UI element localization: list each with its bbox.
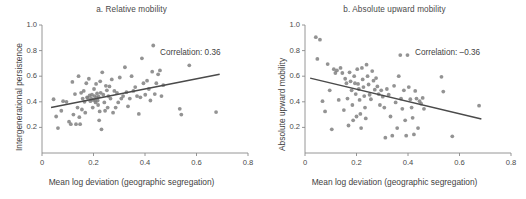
panel-b-x-tick-label: 0.8 — [496, 158, 526, 167]
panel-a-plot — [0, 0, 263, 199]
panel-b-y-tick-label: 0.4 — [263, 97, 300, 106]
panel-a-correlation-annotation: Correlation: 0.36 — [160, 48, 221, 57]
panel-a-y-tick-label: 0.6 — [0, 71, 37, 80]
panel-b-y-tick-label: 1.0 — [263, 20, 300, 29]
panel-b-x-tick-label: 0 — [290, 158, 320, 167]
panel-a-x-tick-label: 0.2 — [79, 158, 109, 167]
panel-b-y-tick-label: 0.6 — [263, 71, 300, 80]
panel-b-plot — [263, 0, 526, 199]
figure-container: a. Relative mobility Mean log deviation … — [0, 0, 526, 199]
panel-a-y-tick-label: 0.2 — [0, 122, 37, 131]
panel-a-x-tick-label: 0 — [27, 158, 57, 167]
panel-a-y-tick-label: 1.0 — [0, 20, 37, 29]
panel-b-y-tick-label: 0.8 — [263, 46, 300, 55]
panel-b-x-tick-label: 0.2 — [342, 158, 372, 167]
panel-a-y-tick-label: 0.4 — [0, 97, 37, 106]
panel-a-x-tick-label: 0.6 — [182, 158, 212, 167]
panel-b-x-tick-label: 0.6 — [445, 158, 475, 167]
panel-a-x-tick-label: 0.8 — [233, 158, 263, 167]
panel-b-y-tick-label: 0.2 — [263, 122, 300, 131]
chart-panel-b: b. Absolute upward mobility Mean log dev… — [263, 0, 526, 199]
panel-b-correlation-annotation: Correlation: –0.36 — [415, 48, 480, 57]
chart-panel-a: a. Relative mobility Mean log deviation … — [0, 0, 263, 199]
panel-a-x-tick-label: 0.4 — [130, 158, 160, 167]
panel-a-y-tick-label: 0.8 — [0, 46, 37, 55]
panel-b-x-tick-label: 0.4 — [393, 158, 423, 167]
panel-b-x-axis-title: Mean log deviation (geographic segregati… — [263, 177, 526, 187]
panel-a-x-axis-title: Mean log deviation (geographic segregati… — [0, 177, 263, 187]
